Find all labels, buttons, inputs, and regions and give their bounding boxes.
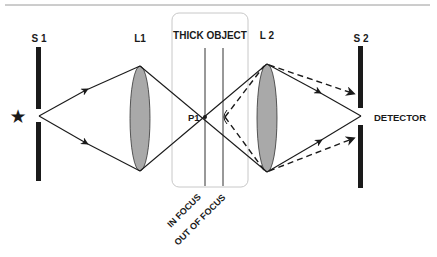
confocal-diagram: ★ S 1 L1 THICK OBJECT L 2 S 2 P1 DETECTO… — [0, 0, 437, 257]
aperture-s2-bottom — [358, 125, 363, 188]
out-of-focus-rays — [225, 65, 352, 171]
focal-point-p1 — [203, 115, 207, 119]
label-s2: S 2 — [353, 33, 368, 44]
in-focus-rays — [39, 64, 361, 172]
label-s1: S 1 — [31, 33, 46, 44]
aperture-s1-top — [36, 47, 41, 109]
label-l1: L1 — [134, 33, 146, 44]
lens-l1 — [130, 66, 150, 171]
label-detector: DETECTOR — [374, 112, 426, 123]
lens-l2 — [257, 64, 277, 172]
light-source-icon: ★ — [9, 105, 26, 127]
label-l2: L 2 — [260, 30, 275, 41]
aperture-s1-bottom — [36, 122, 41, 181]
aperture-s2-top — [358, 46, 363, 108]
label-p1: P1 — [188, 112, 200, 123]
label-thick-object: THICK OBJECT — [173, 30, 247, 41]
